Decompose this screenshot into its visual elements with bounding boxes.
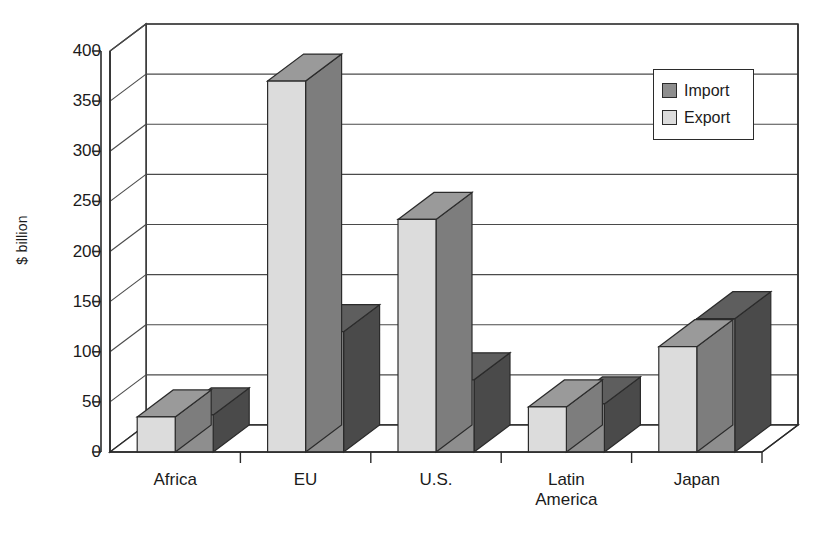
x-axis-tick-label-2: U.S. xyxy=(371,470,501,490)
bar-export-4-front xyxy=(659,347,697,452)
bar-export-3-front xyxy=(528,407,566,452)
legend-item-export[interactable]: Export xyxy=(662,104,745,131)
legend-swatch-icon xyxy=(662,110,677,125)
bar-export-1-front xyxy=(268,81,306,452)
legend-swatch-icon xyxy=(662,83,677,98)
bar-export-1-side xyxy=(306,54,342,452)
legend-label-import: Import xyxy=(684,83,729,99)
bar-export-0-front xyxy=(137,417,175,452)
bar-export-2-side xyxy=(436,192,472,452)
x-axis-tick-label-1: EU xyxy=(241,470,371,490)
x-axis-tick-label-4: Japan xyxy=(632,470,762,490)
legend-label-export: Export xyxy=(684,110,730,126)
bar-import-4-side xyxy=(735,292,771,452)
bar-export-4 xyxy=(659,320,733,452)
x-axis-tick-label-0: Africa xyxy=(110,470,240,490)
legend-item-import[interactable]: Import xyxy=(662,77,745,104)
bar-export-1 xyxy=(268,54,342,452)
bar-export-2-front xyxy=(398,219,436,452)
chart-root: $ billion 400350300250200150100500 Afric… xyxy=(0,0,823,536)
bar-export-2 xyxy=(398,192,472,452)
x-axis-tick-label-3: Latin America xyxy=(501,470,631,509)
chart-legend: Import Export xyxy=(653,69,754,140)
